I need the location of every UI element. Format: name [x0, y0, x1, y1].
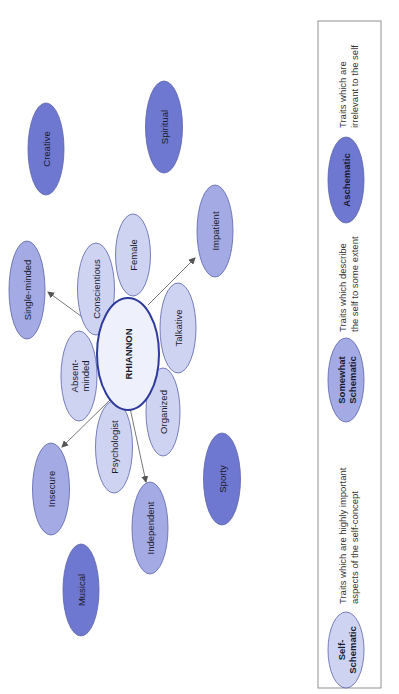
self-schema-diagram: Creative Spiritual Sporty Musical Single…	[0, 0, 399, 694]
trait-independent: Independent	[132, 482, 168, 574]
trait-label: Organized	[158, 390, 169, 434]
trait-insecure: Insecure	[33, 443, 70, 535]
center-node: RHIANNON	[97, 298, 159, 410]
legend-label: Aschematic	[341, 153, 352, 206]
trait-label: Single-minded	[22, 260, 33, 321]
trait-label: Musical	[76, 574, 87, 606]
legend-label-line-1: Self-	[336, 640, 347, 661]
trait-musical: Musical	[63, 544, 99, 636]
legend-description-line-2: irrelevant to the self	[349, 45, 360, 128]
trait-label: Independent	[145, 501, 156, 554]
trait-sporty: Sporty	[204, 433, 241, 525]
legend-label-line-1: Somewhat	[336, 355, 347, 403]
legend: Self- Schematic Traits which are highly …	[318, 21, 381, 688]
trait-talkative: Talkative	[160, 283, 196, 373]
trait-label: Impatient	[210, 211, 221, 250]
trait-single-minded: Single-minded	[9, 241, 45, 339]
legend-description-line-1: Traits which are	[337, 61, 348, 128]
trait-creative: Creative	[28, 103, 64, 195]
trait-label: Insecure	[46, 471, 57, 507]
trait-female: Female	[116, 214, 151, 296]
trait-label-line-1: Absent-	[69, 360, 80, 393]
legend-description-line-2: aspects of the self-concept	[349, 491, 360, 604]
trait-psychologist: Psychologist	[96, 401, 133, 493]
legend-description-line-1: Traits which are highly important	[337, 467, 348, 604]
legend-label-line-2: Schematic	[347, 626, 358, 674]
trait-label: Sporty	[217, 465, 228, 493]
trait-impatient: Impatient	[197, 185, 233, 277]
trait-spiritual: Spiritual	[146, 81, 183, 173]
trait-absent-minded: Absent- minded	[61, 331, 97, 421]
legend-label-line-2: Schematic	[347, 356, 358, 404]
trait-label-line-2: minded	[80, 360, 91, 391]
legend-description-line-2: the self to some extent	[349, 236, 360, 332]
trait-label: Psychologist	[109, 420, 120, 474]
trait-label: Creative	[41, 131, 52, 166]
center-label: RHIANNON	[123, 328, 134, 379]
trait-label: Female	[128, 239, 139, 271]
trait-label: Conscientious	[91, 259, 102, 319]
trait-label: Spiritual	[159, 110, 170, 144]
trait-label: Talkative	[173, 310, 184, 347]
legend-description-line-1: Traits which describe	[337, 243, 348, 332]
